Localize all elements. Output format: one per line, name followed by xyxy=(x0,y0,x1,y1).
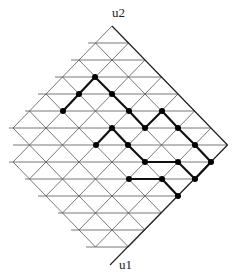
boundary-upper-right-edge xyxy=(112,26,228,145)
grid-diagonal-line xyxy=(79,145,96,162)
grid-diagonal-line xyxy=(30,162,47,179)
grid-diagonal-line xyxy=(46,179,63,196)
grid-diagonal-line xyxy=(96,213,113,230)
grid-diagonal-line xyxy=(112,145,129,162)
grid-diagonal-line xyxy=(63,145,80,162)
vertex-dot xyxy=(159,176,165,182)
vertex-dot xyxy=(126,176,132,182)
grid-diagonal-line xyxy=(129,196,146,213)
grid-diagonal-line xyxy=(112,162,129,179)
path-edge xyxy=(162,111,178,128)
grid-diagonal-line xyxy=(162,145,179,162)
grid-diagonal-line xyxy=(79,162,96,179)
grid-diagonal-line xyxy=(96,196,113,213)
path-edge xyxy=(112,94,129,111)
grid-diagonal-line xyxy=(112,230,129,247)
grid-diagonal-line xyxy=(145,145,162,162)
grid-diagonal-line xyxy=(112,213,129,230)
vertex-dot xyxy=(192,176,198,182)
path-edge xyxy=(79,77,95,94)
grid-diagonal-line xyxy=(96,179,113,196)
grid-diagonal-line xyxy=(96,43,113,60)
vertex-dot xyxy=(142,159,148,165)
axis-label-u1: u1 xyxy=(119,258,132,271)
triangular-grid xyxy=(9,26,228,247)
grid-diagonal-line xyxy=(79,111,96,128)
vertex-dot xyxy=(159,108,165,114)
grid-diagonal-line xyxy=(63,162,80,179)
path-edge xyxy=(96,128,112,145)
grid-diagonal-line xyxy=(46,196,63,213)
path-edge xyxy=(128,145,145,162)
vertex-dot xyxy=(92,74,98,80)
grid-diagonal-line xyxy=(63,60,80,77)
grid-diagonal-line xyxy=(112,43,129,60)
grid-diagonal-line xyxy=(79,230,96,247)
grid-diagonal-line xyxy=(162,128,179,145)
grid-diagonal-line xyxy=(112,60,129,77)
grid-diagonal-line xyxy=(96,230,113,247)
grid-diagonal-line xyxy=(46,111,63,128)
grid-diagonal-line xyxy=(13,128,30,145)
path-edge xyxy=(145,111,162,128)
grid-diagonal-line xyxy=(46,162,63,179)
grid-diagonal-line xyxy=(96,94,113,111)
grid-diagonal-line xyxy=(178,111,195,128)
vertex-dot xyxy=(175,193,181,199)
grid-diagonal-line xyxy=(162,94,179,111)
lattice-diagram xyxy=(0,0,240,279)
vertex-dot xyxy=(142,125,148,131)
path-edge xyxy=(178,162,195,179)
grid-diagonal-line xyxy=(112,77,129,94)
grid-diagonal-line xyxy=(145,179,162,196)
grid-diagonal-line xyxy=(195,128,212,145)
grid-diagonal-line xyxy=(63,111,80,128)
grid-diagonal-line xyxy=(79,60,96,77)
grid-diagonal-line xyxy=(63,196,80,213)
grid-diagonal-line xyxy=(30,111,47,128)
grid-diagonal-line xyxy=(63,77,80,94)
vertex-dot xyxy=(126,108,132,114)
grid-diagonal-line xyxy=(63,213,80,230)
grid-diagonal-line xyxy=(129,94,146,111)
grid-diagonal-line xyxy=(13,145,30,162)
vertex-dot xyxy=(60,108,66,114)
path-edge xyxy=(63,94,79,111)
grid-diagonal-line xyxy=(96,60,113,77)
grid-diagonal-line xyxy=(145,162,162,179)
grid-diagonal-line xyxy=(129,179,146,196)
grid-diagonal-line xyxy=(96,162,113,179)
grid-diagonal-line xyxy=(46,145,63,162)
grid-diagonal-line xyxy=(79,43,96,60)
grid-diagonal-line xyxy=(129,128,146,145)
vertex-dot xyxy=(109,125,115,131)
grid-diagonal-line xyxy=(46,94,63,111)
vertex-dot xyxy=(76,91,82,97)
axis-label-u2: u2 xyxy=(112,6,125,19)
grid-diagonal-line xyxy=(112,179,129,196)
grid-diagonal-line xyxy=(79,94,96,111)
grid-diagonal-line xyxy=(112,111,129,128)
grid-diagonal-line xyxy=(145,77,162,94)
grid-diagonal-line xyxy=(129,213,146,230)
path-edge xyxy=(95,77,112,94)
vertex-dot xyxy=(208,159,214,165)
vertex-dot xyxy=(192,142,198,148)
grid-diagonal-line xyxy=(96,145,113,162)
grid-diagonal-line xyxy=(30,179,47,196)
grid-diagonal-line xyxy=(178,145,195,162)
grid-diagonal-line xyxy=(79,128,96,145)
grid-diagonal-line xyxy=(96,111,113,128)
path-edge xyxy=(195,145,211,162)
grid-diagonal-line xyxy=(13,111,30,128)
grid-diagonal-line xyxy=(129,77,146,94)
grid-diagonal-line xyxy=(96,26,113,43)
grid-diagonal-line xyxy=(63,179,80,196)
vertex-dot xyxy=(109,91,115,97)
grid-diagonal-line xyxy=(79,196,96,213)
vertex-dot xyxy=(125,142,131,148)
grid-diagonal-line xyxy=(30,94,47,111)
vertex-dot xyxy=(175,159,181,165)
grid-diagonal-line xyxy=(30,128,47,145)
grid-diagonal-line xyxy=(129,60,146,77)
